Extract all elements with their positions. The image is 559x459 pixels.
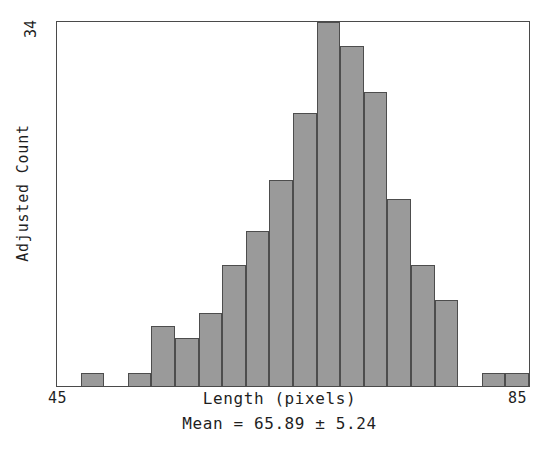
histogram-bar bbox=[411, 265, 435, 386]
histogram-bars bbox=[57, 22, 529, 386]
histogram-bar bbox=[317, 22, 340, 386]
histogram-bar bbox=[199, 313, 222, 386]
y-axis-tick-max-text: 34 bbox=[22, 14, 40, 44]
histogram-bar bbox=[482, 373, 505, 386]
histogram-bar bbox=[81, 373, 104, 386]
histogram-bar bbox=[505, 373, 529, 386]
mean-annotation: Mean = 65.89 ± 5.24 bbox=[0, 414, 559, 433]
histogram-bar bbox=[128, 373, 151, 386]
histogram-bar bbox=[269, 180, 293, 386]
plot-area bbox=[56, 21, 530, 387]
histogram-bar bbox=[435, 300, 458, 386]
histogram-bar bbox=[364, 92, 387, 386]
y-axis-label: Adjusted Count bbox=[0, 0, 46, 386]
histogram-bar bbox=[387, 199, 411, 386]
histogram-bar bbox=[293, 113, 317, 386]
histogram-bar bbox=[222, 265, 246, 386]
histogram-bar bbox=[340, 46, 364, 386]
y-axis-label-text: Adjusted Count bbox=[14, 124, 32, 262]
histogram-bar bbox=[175, 338, 199, 386]
x-axis-label: Length (pixels) bbox=[0, 389, 559, 408]
histogram-bar bbox=[246, 231, 269, 386]
y-axis-tick-max: 34 bbox=[22, 14, 52, 44]
histogram-figure: Adjusted Count 34 45 85 Length (pixels) … bbox=[0, 0, 559, 459]
histogram-bar bbox=[151, 326, 175, 386]
